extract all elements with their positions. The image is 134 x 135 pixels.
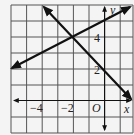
tick-label-neg2: −2 [61, 101, 74, 115]
origin-label: O [92, 101, 101, 115]
y-axis-label: y [109, 3, 116, 17]
tick-label-4: 4 [94, 31, 100, 45]
coordinate-plane: y x O −4 −2 4 2 [0, 0, 134, 135]
x-axis-label: x [123, 102, 130, 116]
tick-label-neg4: −4 [30, 101, 43, 115]
tick-label-2: 2 [94, 63, 100, 77]
